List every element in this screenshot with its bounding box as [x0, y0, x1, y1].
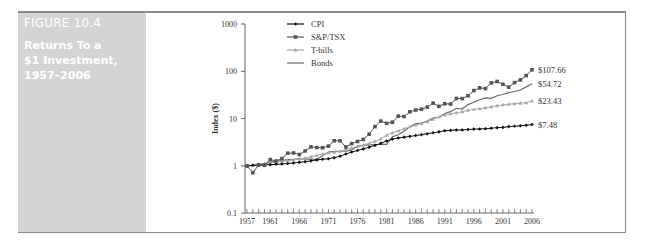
x-tick-label: 1961	[262, 217, 278, 226]
diamond-marker	[472, 127, 476, 131]
series-sptsx	[245, 68, 534, 174]
diamond-marker	[460, 128, 464, 132]
square-marker	[251, 171, 255, 175]
legend-item: CPI	[287, 19, 324, 29]
square-marker	[298, 153, 302, 157]
diamond-marker	[466, 128, 470, 132]
series-tbills	[245, 99, 534, 167]
y-tick-label: 0.1	[227, 209, 237, 218]
end-value-label: $7.48	[538, 120, 557, 130]
diamond-marker	[507, 125, 511, 129]
diamond-marker	[431, 131, 435, 135]
line-chart: 0.11101001000195719611966197119761981198…	[0, 0, 645, 244]
square-marker	[268, 158, 272, 162]
diamond-marker	[356, 149, 360, 153]
triangle-marker	[530, 99, 534, 103]
series-line	[247, 70, 532, 173]
square-marker	[396, 114, 400, 118]
legend-label: T-bills	[311, 45, 333, 55]
diamond-marker	[495, 126, 499, 130]
square-marker	[455, 97, 459, 101]
diamond-marker	[338, 154, 342, 158]
square-marker	[344, 145, 348, 149]
square-marker	[513, 81, 517, 85]
square-marker	[466, 94, 470, 98]
legend-item: T-bills	[287, 45, 333, 55]
diamond-marker	[327, 157, 331, 161]
square-marker	[437, 105, 441, 109]
square-marker	[519, 78, 523, 82]
square-marker	[292, 151, 296, 155]
diamond-marker	[478, 127, 482, 131]
square-marker	[280, 157, 284, 161]
diamond-marker	[449, 129, 453, 133]
y-tick-label: 10	[229, 115, 237, 124]
chart-axes: 0.11101001000195719611966197119761981198…	[211, 20, 540, 226]
diamond-marker	[321, 157, 325, 161]
square-marker	[321, 146, 325, 150]
square-marker	[379, 119, 383, 123]
end-value-label: $107.66	[538, 65, 566, 75]
square-marker	[495, 80, 499, 84]
diamond-marker	[332, 156, 336, 160]
square-marker	[501, 82, 505, 86]
square-marker	[286, 151, 290, 155]
square-marker	[414, 108, 418, 112]
diamond-marker	[420, 133, 424, 137]
square-marker	[385, 121, 389, 125]
square-marker	[489, 81, 493, 85]
square-marker	[367, 132, 371, 136]
x-tick-label: 2001	[495, 217, 511, 226]
diamond-marker	[298, 161, 302, 165]
diamond-marker	[303, 160, 307, 164]
diamond-marker	[292, 161, 296, 165]
diamond-marker	[437, 130, 441, 134]
square-marker	[245, 164, 249, 168]
end-value-label: $23.43	[538, 96, 561, 106]
diamond-marker	[396, 136, 400, 140]
legend-label: S&P/TSX	[311, 32, 346, 42]
legend-label: Bonds	[311, 58, 333, 68]
square-marker	[530, 68, 534, 72]
square-marker	[362, 138, 366, 142]
square-marker	[391, 120, 395, 124]
diamond-marker	[286, 162, 290, 166]
diamond-marker	[426, 132, 430, 136]
diamond-marker	[362, 147, 366, 151]
x-tick-label: 1976	[350, 217, 366, 226]
x-tick-label: 1986	[408, 217, 424, 226]
square-marker	[426, 105, 430, 109]
diamond-marker	[294, 22, 298, 26]
x-tick-label: 1991	[437, 217, 453, 226]
series-line	[247, 101, 532, 166]
square-marker	[356, 140, 360, 144]
diamond-marker	[484, 127, 488, 131]
square-marker	[443, 102, 447, 106]
chart-end-labels: $7.48$107.66$23.43$54.72	[538, 65, 566, 130]
square-marker	[507, 85, 511, 89]
end-value-label: $54.72	[538, 79, 561, 89]
diamond-marker	[344, 152, 348, 156]
x-tick-label: 2006	[524, 217, 540, 226]
square-marker	[402, 115, 406, 119]
chart-legend: CPIS&P/TSXT-billsBonds	[287, 19, 346, 68]
x-tick-label: 1996	[466, 217, 482, 226]
diamond-marker	[489, 126, 493, 130]
diamond-marker	[524, 124, 528, 128]
legend-item: Bonds	[287, 58, 333, 68]
diamond-marker	[501, 126, 505, 130]
diamond-marker	[513, 124, 517, 128]
diamond-marker	[367, 145, 371, 149]
square-marker	[332, 139, 336, 143]
square-marker	[257, 163, 261, 167]
diamond-marker	[408, 135, 412, 139]
y-axis-label: Index ($)	[211, 103, 220, 134]
square-marker	[472, 89, 476, 93]
square-marker	[478, 86, 482, 90]
square-marker	[263, 163, 267, 167]
square-marker	[420, 107, 424, 111]
square-marker	[408, 110, 412, 114]
square-marker	[274, 159, 278, 163]
y-tick-label: 1	[233, 162, 237, 171]
x-tick-label: 1957	[239, 217, 255, 226]
